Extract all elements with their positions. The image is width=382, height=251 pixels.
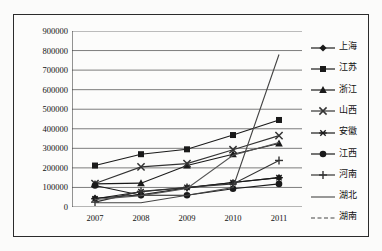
legend-label: 安徽 — [339, 124, 357, 137]
legend-item-山西[interactable]: 山西 — [310, 99, 378, 120]
legend-item-安徽[interactable]: 安徽 — [310, 120, 378, 141]
circle-marker — [320, 151, 327, 158]
asterisk-marker-glyph — [310, 127, 336, 139]
square-marker — [92, 163, 98, 169]
data-point-square — [320, 66, 326, 72]
data-point-circle — [320, 151, 327, 158]
legend-item-江西[interactable]: 江西 — [310, 142, 378, 163]
triangle-marker-glyph — [310, 84, 336, 96]
legend-item-湖南[interactable]: 湖南 — [310, 205, 378, 226]
legend-item-上海[interactable]: 上海 — [310, 35, 378, 56]
series-line-3 — [95, 136, 279, 184]
y-axis-tick-label: 700000 — [43, 66, 69, 75]
data-point-square — [138, 151, 144, 157]
y-axis-tick-label: 600000 — [43, 85, 69, 94]
y-axis-tick-label: 900000 — [43, 27, 69, 36]
data-point-asterisk — [319, 130, 327, 135]
data-point-square — [184, 146, 190, 152]
data-point-circle — [276, 181, 283, 188]
square-marker — [320, 66, 326, 72]
data-point-square — [92, 163, 98, 169]
legend-label: 湖北 — [339, 188, 357, 201]
x-axis-tick-label: 2010 — [225, 214, 242, 223]
legend-label: 浙江 — [339, 82, 357, 95]
circle-marker — [276, 181, 283, 188]
data-point-x — [275, 132, 282, 139]
legend-label: 江西 — [339, 146, 357, 159]
plus-marker — [310, 167, 336, 179]
square-marker — [230, 132, 236, 138]
chart-frame: 0100000200000300000400000500000600000700… — [13, 14, 369, 237]
chart-screenshot: 0100000200000300000400000500000600000700… — [0, 0, 382, 251]
legend-label: 上海 — [339, 39, 357, 52]
legend-label: 湖南 — [339, 209, 357, 222]
legend-item-湖北[interactable]: 湖北 — [310, 184, 378, 205]
y-axis-labels: 0100000200000300000400000500000600000700… — [14, 31, 68, 207]
legend-item-江苏[interactable]: 江苏 — [310, 56, 378, 77]
data-point-diamond — [319, 44, 326, 51]
legend-label: 河南 — [339, 167, 357, 180]
square-marker — [276, 117, 282, 123]
line-marker — [310, 189, 336, 201]
line-marker-glyph — [310, 191, 336, 203]
dashed-line-marker-glyph — [310, 212, 336, 224]
x-axis-tick-label: 2009 — [179, 214, 196, 223]
legend-label: 江苏 — [339, 60, 357, 73]
diamond-marker-glyph — [310, 42, 336, 54]
y-axis-tick-label: 200000 — [43, 164, 69, 173]
y-axis-tick-label: 300000 — [43, 144, 69, 153]
diamond-marker — [310, 40, 336, 52]
data-point-circle — [92, 182, 99, 189]
square-marker-glyph — [310, 63, 336, 75]
plus-marker-glyph — [310, 169, 336, 181]
y-axis-tick-label: 400000 — [43, 125, 69, 134]
dashed-line-marker — [310, 210, 336, 222]
diamond-marker — [319, 44, 326, 51]
x-marker — [310, 103, 336, 115]
chart-legend: 上海江苏浙江山西安徽江西河南湖北湖南 — [310, 35, 378, 227]
x-axis-tick-label: 2007 — [87, 214, 104, 223]
x-axis-labels: 20072008200920102011 — [72, 214, 302, 230]
data-point-plus — [183, 183, 191, 191]
y-axis-tick-label: 0 — [64, 203, 68, 212]
legend-item-河南[interactable]: 河南 — [310, 163, 378, 184]
y-axis-tick-label: 500000 — [43, 105, 69, 114]
legend-item-浙江[interactable]: 浙江 — [310, 78, 378, 99]
data-point-square — [276, 117, 282, 123]
x-axis-tick-label: 2008 — [133, 214, 150, 223]
asterisk-marker — [310, 125, 336, 137]
circle-marker — [310, 146, 336, 158]
triangle-marker — [310, 82, 336, 94]
plot-svg — [72, 31, 302, 207]
data-point-square — [230, 132, 236, 138]
data-point-plus — [319, 171, 327, 179]
x-axis-tick-label: 2011 — [271, 214, 288, 223]
square-marker — [138, 151, 144, 157]
circle-marker-glyph — [310, 148, 336, 160]
legend-label: 山西 — [339, 103, 357, 116]
circle-marker — [92, 182, 99, 189]
plot-area — [72, 31, 302, 207]
square-marker — [184, 146, 190, 152]
data-point-plus — [275, 156, 283, 164]
y-axis-tick-label: 100000 — [43, 183, 69, 192]
series-line-1 — [95, 120, 279, 166]
y-axis-tick-label: 800000 — [43, 46, 69, 55]
square-marker — [310, 61, 336, 73]
x-marker-glyph — [310, 105, 336, 117]
